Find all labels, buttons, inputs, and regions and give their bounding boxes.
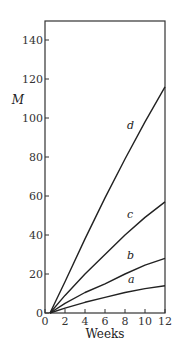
x-axis-ticks: 024681012: [42, 309, 173, 328]
curve-b: [50, 258, 165, 313]
series-label-a: a: [128, 273, 135, 286]
x-tick-label: 2: [62, 315, 69, 328]
x-tick-label: 0: [42, 315, 49, 328]
series-curves: [50, 87, 165, 313]
x-tick-label: 10: [138, 315, 152, 328]
y-tick-label: 20: [29, 268, 43, 281]
x-axis-label: Weeks: [86, 327, 125, 341]
plot-frame: [45, 21, 165, 313]
y-tick-label: 80: [29, 151, 43, 164]
y-axis-label: M: [11, 93, 25, 107]
y-tick-label: 60: [29, 190, 43, 203]
x-tick-label: 12: [158, 315, 172, 328]
y-tick-label: 40: [29, 229, 43, 242]
line-chart: 020406080100120140 024681012 abcd M Week…: [0, 0, 181, 356]
y-tick-label: 120: [22, 73, 43, 86]
y-tick-label: 140: [22, 34, 43, 47]
curve-d: [50, 87, 165, 313]
y-tick-label: 100: [22, 112, 43, 125]
curve-a: [50, 286, 165, 313]
series-label-b: b: [127, 249, 134, 262]
series-label-c: c: [127, 208, 133, 221]
series-label-d: d: [127, 119, 134, 132]
